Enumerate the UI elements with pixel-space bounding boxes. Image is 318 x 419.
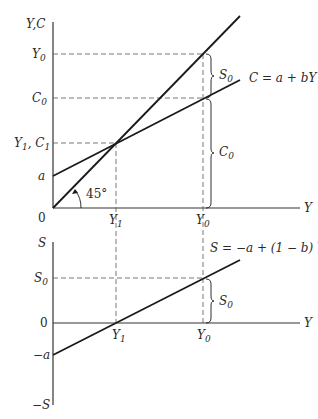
brace-s0-upper <box>206 54 214 98</box>
x-tick-y1-upper: Y1 <box>109 213 123 229</box>
y-tick-zero: 0 <box>40 316 48 330</box>
y-tick-a: a <box>38 169 45 183</box>
consumption-line <box>53 80 240 176</box>
upper-x-axis-label: Y <box>304 201 313 215</box>
y-tick-s0: S0 <box>34 271 48 287</box>
keynesian-cross-diagram: Y,C Y 0 Y0 C0 Y1, C1 a Y1 Y0 45° C = a +… <box>0 0 318 419</box>
brace-s0-label-upper: S0 <box>219 68 233 84</box>
x-tick-y1-lower: Y1 <box>112 328 126 344</box>
brace-c0-label-upper: C0 <box>219 145 234 161</box>
angle-label: 45° <box>86 187 107 201</box>
saving-line <box>53 260 240 355</box>
x-tick-y0-lower: Y0 <box>197 328 211 344</box>
y-tick-y0: Y0 <box>32 47 46 63</box>
brace-s0-lower <box>206 279 214 323</box>
lower-y-axis-top-label: S <box>38 236 46 250</box>
brace-s0-label-lower: S0 <box>219 294 233 310</box>
upper-origin-label: 0 <box>38 211 46 225</box>
upper-y-axis-label: Y,C <box>26 17 45 31</box>
y-tick-y1c1: Y1, C1 <box>14 136 50 152</box>
lower-panel: S −S Y S0 0 −a Y1 Y0 S = −a + (1 − b) Y … <box>32 236 318 412</box>
y-tick-c0: C0 <box>32 91 47 107</box>
saving-function-label: S = −a + (1 − b) Y <box>210 241 318 255</box>
brace-c0-upper <box>206 99 214 208</box>
45-degree-line <box>53 16 240 208</box>
lower-y-axis-bottom-label: −S <box>32 398 50 412</box>
upper-panel: Y,C Y 0 Y0 C0 Y1, C1 a Y1 Y0 45° C = a +… <box>14 16 317 323</box>
x-tick-y0-upper: Y0 <box>196 213 210 229</box>
y-tick-neg-a: −a <box>33 348 50 362</box>
consumption-function-label: C = a + bY <box>249 71 317 85</box>
lower-x-axis-label: Y <box>304 316 313 330</box>
